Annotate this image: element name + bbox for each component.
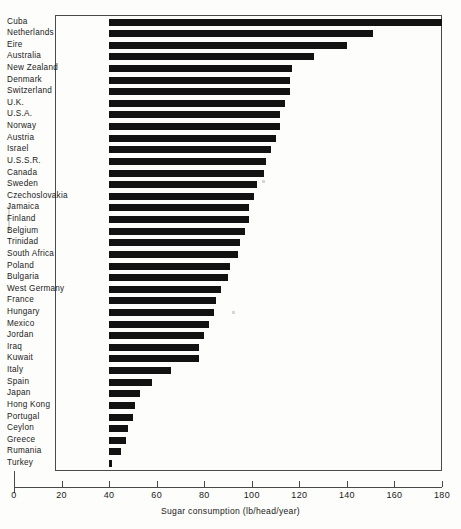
bar-label: Mexico bbox=[0, 318, 104, 329]
bar-label: Norway bbox=[0, 120, 104, 131]
bar-row: Spain bbox=[0, 377, 461, 388]
bar bbox=[109, 181, 256, 188]
bar-row: Eire bbox=[0, 40, 461, 51]
bar-row: Bulgaria bbox=[0, 272, 461, 283]
bar bbox=[109, 158, 266, 165]
bar bbox=[109, 42, 347, 49]
bar bbox=[109, 146, 271, 153]
x-tick-label: 100 bbox=[244, 490, 260, 501]
bar bbox=[109, 367, 171, 374]
bar bbox=[109, 88, 290, 95]
bar bbox=[109, 309, 214, 316]
bar bbox=[109, 263, 230, 270]
bar bbox=[109, 460, 112, 467]
bar-label: Sweden bbox=[0, 178, 104, 189]
x-tick bbox=[442, 481, 443, 487]
bar-row: Israel bbox=[0, 144, 461, 155]
bar-row: U.K. bbox=[0, 98, 461, 109]
x-tick-label: 160 bbox=[386, 490, 402, 501]
bar-row: Belgium bbox=[0, 226, 461, 237]
bar-row: Italy bbox=[0, 365, 461, 376]
bar-row: Turkey bbox=[0, 458, 461, 469]
bar-label: Poland bbox=[0, 260, 104, 271]
bar-label: Belgium bbox=[0, 225, 104, 236]
bar bbox=[109, 77, 290, 84]
bar-label: Greece bbox=[0, 434, 104, 445]
bar-row: Japan bbox=[0, 388, 461, 399]
bar-row: U.S.A. bbox=[0, 109, 461, 120]
bar-label: Denmark bbox=[0, 74, 104, 85]
bar bbox=[109, 19, 442, 26]
bar bbox=[109, 402, 135, 409]
bar-row: U.S.S.R. bbox=[0, 156, 461, 167]
bar-row: Canada bbox=[0, 168, 461, 179]
bar-label: South Africa bbox=[0, 248, 104, 259]
bar bbox=[109, 414, 133, 421]
bar bbox=[109, 332, 204, 339]
bar-label: Czechoslovakia bbox=[0, 190, 104, 201]
x-axis: 020406080100120140160180 Sugar consumpti… bbox=[0, 471, 461, 529]
bar-label: West Germany bbox=[0, 283, 104, 294]
x-tick bbox=[394, 481, 395, 487]
x-tick bbox=[299, 481, 300, 487]
bar-row: Portugal bbox=[0, 412, 461, 423]
bar bbox=[109, 425, 128, 432]
x-tick bbox=[62, 481, 63, 487]
bar-row: Poland bbox=[0, 261, 461, 272]
bar bbox=[109, 30, 373, 37]
bar bbox=[109, 111, 280, 118]
bar-label: Kuwait bbox=[0, 352, 104, 363]
bar-label: Portugal bbox=[0, 411, 104, 422]
bar bbox=[109, 355, 199, 362]
bar-label: Netherlands bbox=[0, 27, 104, 38]
bar-label: U.S.A. bbox=[0, 108, 104, 119]
bar bbox=[109, 100, 285, 107]
bar-label: Trinidad bbox=[0, 236, 104, 247]
bar bbox=[109, 204, 249, 211]
x-tick-label: 120 bbox=[291, 490, 307, 501]
bar-label: Hungary bbox=[0, 306, 104, 317]
bar-row: West Germany bbox=[0, 284, 461, 295]
bar-rows: CubaNetherlandsEireAustraliaNew ZealandD… bbox=[0, 15, 461, 471]
bar-row: Mexico bbox=[0, 319, 461, 330]
x-tick-label: 140 bbox=[339, 490, 355, 501]
bar-label: Ceylon bbox=[0, 422, 104, 433]
bar bbox=[109, 321, 209, 328]
bar-row: France bbox=[0, 295, 461, 306]
bar-row: Australia bbox=[0, 51, 461, 62]
bar-row: Switzerland bbox=[0, 86, 461, 97]
x-tick-label: 40 bbox=[104, 490, 115, 501]
x-tick-label: 60 bbox=[151, 490, 162, 501]
x-tick-label: 180 bbox=[434, 490, 450, 501]
bar-label: U.K. bbox=[0, 97, 104, 108]
bar-row: Netherlands bbox=[0, 28, 461, 39]
x-tick bbox=[109, 481, 110, 487]
x-tick bbox=[347, 481, 348, 487]
bar-label: Spain bbox=[0, 376, 104, 387]
bar bbox=[109, 65, 292, 72]
bar-row: Czechoslovakia bbox=[0, 191, 461, 202]
bar-label: Australia bbox=[0, 50, 104, 61]
x-axis-line bbox=[14, 487, 442, 488]
bar-label: Italy bbox=[0, 364, 104, 375]
x-tick-label: 0 bbox=[11, 490, 16, 501]
bar-row: Rumania bbox=[0, 446, 461, 457]
bar-label: U.S.S.R. bbox=[0, 155, 104, 166]
bar bbox=[109, 448, 121, 455]
bar-row: Iraq bbox=[0, 342, 461, 353]
bar-label: Turkey bbox=[0, 457, 104, 468]
bar-label: Cuba bbox=[0, 16, 104, 27]
bar bbox=[109, 53, 313, 60]
x-axis-title: Sugar consumption (lb/head/year) bbox=[0, 506, 461, 516]
bar bbox=[109, 251, 237, 258]
bar-row: Kuwait bbox=[0, 353, 461, 364]
bar bbox=[109, 286, 221, 293]
bar-row: Ceylon bbox=[0, 423, 461, 434]
bar-row: Jamaica bbox=[0, 202, 461, 213]
bar-label: Jamaica bbox=[0, 201, 104, 212]
bar-label: New Zealand bbox=[0, 62, 104, 73]
bar bbox=[109, 123, 280, 130]
bar bbox=[109, 274, 228, 281]
bar-row: Sweden bbox=[0, 179, 461, 190]
bar-row: Cuba bbox=[0, 17, 461, 28]
